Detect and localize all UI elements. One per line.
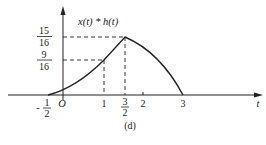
figure-caption: (d): [124, 120, 136, 132]
svg-text:1: 1: [45, 97, 50, 108]
svg-text:16: 16: [39, 61, 49, 72]
dashed-guides: [63, 37, 125, 95]
x-axis-label: t: [257, 98, 261, 109]
svg-text:-: -: [36, 102, 39, 113]
svg-text:9: 9: [42, 49, 47, 60]
convolution-figure: x(t) * h(t) 15 16 9 16 - 1 2 O 1 3 2: [0, 0, 266, 145]
x-tick-label-3: 3: [181, 98, 186, 109]
y-tick-label-15-16: 15 16: [37, 25, 52, 48]
x-tick-label-3-2: 3 2: [121, 96, 129, 118]
y-axis: [61, 6, 66, 100]
function-label: x(t) * h(t): [77, 16, 119, 28]
x-tick-label-2: 2: [141, 98, 146, 109]
convolution-curve: [48, 37, 183, 95]
x-tick-label-neg-half: - 1 2: [36, 97, 51, 119]
x-tick-label-1: 1: [102, 98, 107, 109]
svg-text:16: 16: [39, 37, 49, 48]
origin-label: O: [58, 98, 66, 109]
x-axis-arrow-icon: [254, 93, 263, 98]
svg-text:3: 3: [123, 96, 128, 107]
y-axis-arrow-icon: [61, 6, 66, 15]
svg-text:2: 2: [123, 107, 128, 118]
svg-text:2: 2: [45, 108, 50, 119]
y-tick-label-9-16: 9 16: [37, 49, 52, 72]
svg-text:15: 15: [39, 25, 49, 36]
